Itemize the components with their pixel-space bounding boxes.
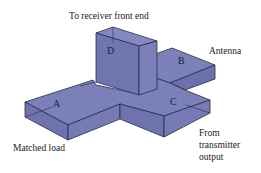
port-b-label: B [178,55,185,66]
port-c-label: C [170,96,177,107]
transmitter-label-line1: From [199,127,220,139]
receiver-label: To receiver front end [69,10,149,22]
transmitter-label-line3: output [199,151,223,163]
transmitter-label-line2: transmitter [199,139,240,151]
matched-load-label: Matched load [13,142,65,154]
port-a-label: A [53,98,60,109]
port-d-label: D [107,45,114,56]
antenna-label: Antenna [209,45,241,57]
arm-d-side [139,41,157,95]
